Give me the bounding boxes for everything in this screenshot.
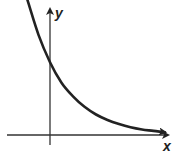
decay-curve: [27, 0, 165, 132]
x-axis-label: x: [162, 138, 172, 154]
y-axis-label: y: [54, 5, 64, 21]
exponential-decay-plot: y x: [0, 0, 175, 154]
